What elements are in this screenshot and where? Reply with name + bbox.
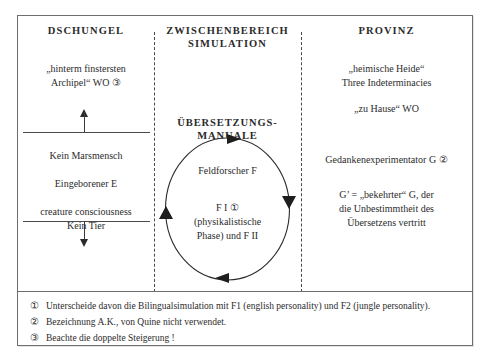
footnote-item: ② Bezeichnung A.K., von Quine nicht verw… xyxy=(18,314,472,330)
column-dschungel-title: DSCHUNGEL xyxy=(18,16,154,37)
uebersetzungsmanuale-line1: ÜBERSETZUNGS- xyxy=(154,116,301,129)
provinz-quote-zu-hause: „zu Hause“ WO xyxy=(301,102,472,116)
dschungel-text-creature-consciousness-line1: creature consciousness xyxy=(18,205,154,219)
dschungel-quote: „hinterm finstersten Archipel“ WO ③ xyxy=(18,62,154,90)
cycle-arrow-bottom-icon xyxy=(215,273,229,283)
column-provinz: PROVINZ „heimische Heide“ Three Indeterm… xyxy=(301,16,472,37)
down-arrow-head-icon xyxy=(80,239,88,247)
footnote-text: Bezeichnung A.K., von Quine nicht verwen… xyxy=(46,315,472,330)
page-top-text-sliver xyxy=(18,0,458,8)
column-zwischenbereich-title: ZWISCHENBEREICH SIMULATION xyxy=(154,16,301,50)
diagram-frame: DSCHUNGEL „hinterm finstersten Archipel“… xyxy=(17,15,473,346)
dschungel-rule-top xyxy=(23,132,150,133)
footnote-marker: ② xyxy=(30,314,46,329)
g-prime-line1: G’ = „bekehrter“ G, der xyxy=(301,188,472,202)
cycle-arrow-top-icon xyxy=(227,134,241,144)
dschungel-quote-line1: „hinterm finstersten xyxy=(18,62,154,76)
dschungel-text-kein-marsmensch: Kein Marsmensch xyxy=(18,149,154,163)
column-divider-left xyxy=(154,32,155,292)
g-prime-block: G’ = „bekehrter“ G, der die Unbestimmthe… xyxy=(301,188,472,230)
column-provinz-title: PROVINZ xyxy=(301,16,472,37)
dschungel-quote-line2: Archipel“ WO ③ xyxy=(18,76,154,90)
feldforscher-label: Feldforscher F xyxy=(154,164,301,178)
dschungel-text-creature-consciousness: creature consciousness Kein Tier xyxy=(18,205,154,233)
phase-line1: F I ① xyxy=(154,201,301,215)
provinz-quote-line2: Three Indeterminacies xyxy=(301,76,472,90)
dschungel-text-eingeborener: Eingeborener E xyxy=(18,177,154,191)
phase-block: F I ① (physikalistische Phase) und F II xyxy=(154,201,301,243)
up-arrow-shaft xyxy=(84,112,85,133)
footnotes: ① Unterscheide davon die Bilingualsimula… xyxy=(18,291,472,346)
column-dschungel: DSCHUNGEL „hinterm finstersten Archipel“… xyxy=(18,16,154,37)
footnote-item: ③ Beachte die doppelte Steigerung ! xyxy=(18,330,472,346)
phase-line3: Phase) und F II xyxy=(154,229,301,243)
column-zwischenbereich: ZWISCHENBEREICH SIMULATION ÜBERSETZUNGS-… xyxy=(154,16,301,50)
column-zwischenbereich-title-line1: ZWISCHENBEREICH xyxy=(154,24,301,37)
footnote-item: ① Unterscheide davon die Bilingualsimula… xyxy=(18,298,472,314)
provinz-quote-block: „heimische Heide“ Three Indeterminacies xyxy=(301,62,472,90)
footnote-marker: ③ xyxy=(30,330,46,345)
footnote-marker: ① xyxy=(30,298,46,313)
g-prime-line3: Übersetzens vertritt xyxy=(301,216,472,230)
footnote-text: Unterscheide davon die Bilingualsimulati… xyxy=(46,299,472,314)
footnote-text: Beachte die doppelte Steigerung ! xyxy=(46,331,472,346)
dschungel-rule-bottom xyxy=(23,221,150,222)
gedankenexperimentator-label: Gedankenexperimentator G ② xyxy=(301,153,472,167)
g-prime-line2: die Unbestimmtheit des xyxy=(301,202,472,216)
phase-line2: (physikalistische xyxy=(154,215,301,229)
scanned-page: DSCHUNGEL „hinterm finstersten Archipel“… xyxy=(0,0,488,360)
provinz-quote-line1: „heimische Heide“ xyxy=(301,62,472,76)
column-zwischenbereich-title-line2: SIMULATION xyxy=(154,37,301,50)
